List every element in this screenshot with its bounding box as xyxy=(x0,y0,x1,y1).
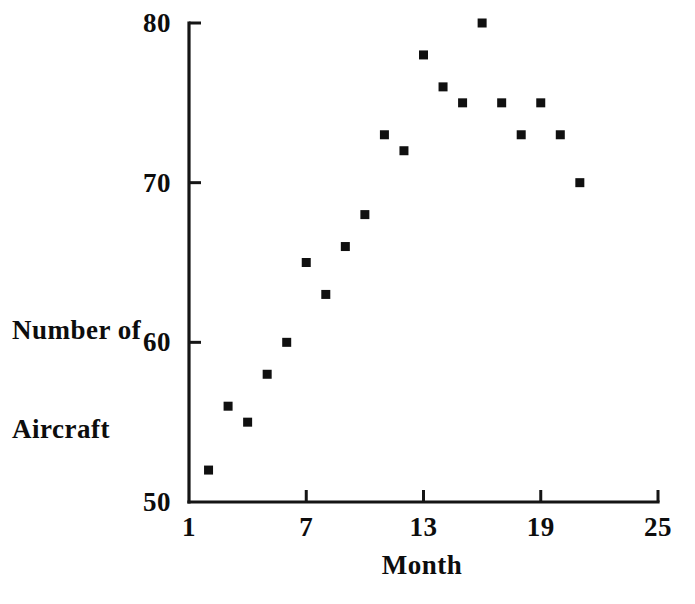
x-tick-label-1: 1 xyxy=(182,514,196,541)
scatter-chart: 50607080 17131925 Number of Aircraft Mon… xyxy=(0,0,695,604)
x-tick-label-13: 13 xyxy=(410,514,438,541)
y-tick-label-70: 70 xyxy=(143,169,171,196)
data-point xyxy=(478,19,487,28)
data-point xyxy=(341,242,350,251)
x-tick-label-25: 25 xyxy=(644,514,672,541)
x-tick-label-19: 19 xyxy=(527,514,555,541)
data-point xyxy=(321,290,330,299)
data-point xyxy=(575,178,584,187)
x-axis-title: Month xyxy=(382,552,463,579)
data-point xyxy=(243,418,252,427)
data-point xyxy=(224,402,233,411)
data-point xyxy=(517,130,526,139)
data-point xyxy=(536,98,545,107)
data-point xyxy=(263,370,272,379)
y-tick-label-80: 80 xyxy=(143,10,171,37)
y-axis-title: Number of Aircraft xyxy=(12,248,141,512)
data-point xyxy=(419,50,428,59)
tick-marks xyxy=(189,23,658,502)
data-point xyxy=(556,130,565,139)
data-point xyxy=(439,82,448,91)
y-tick-label-50: 50 xyxy=(143,489,171,516)
data-point xyxy=(204,466,213,475)
data-point xyxy=(282,338,291,347)
y-axis-title-line-1: Number of xyxy=(12,314,141,347)
data-point xyxy=(458,98,467,107)
data-point xyxy=(360,210,369,219)
axes xyxy=(189,23,658,502)
y-axis-title-line-2: Aircraft xyxy=(12,413,141,446)
x-tick-label-7: 7 xyxy=(299,514,313,541)
data-markers xyxy=(204,19,584,475)
data-point xyxy=(399,146,408,155)
data-point xyxy=(380,130,389,139)
data-point xyxy=(302,258,311,267)
y-tick-label-60: 60 xyxy=(143,329,171,356)
data-point xyxy=(497,98,506,107)
